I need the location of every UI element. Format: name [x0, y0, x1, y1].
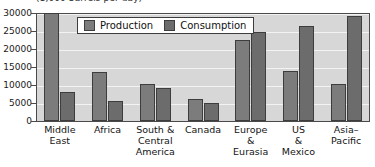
y-axis-tick-label: 30000: [0, 9, 32, 18]
y-axis-tick-label: 25000: [0, 27, 32, 36]
x-axis-category-label: Africa: [84, 124, 132, 135]
legend-label-consumption: Consumption: [180, 20, 246, 31]
x-axis-category-label: South & Central America: [131, 124, 179, 157]
bar-production: [331, 84, 346, 121]
bar-consumption: [204, 103, 219, 121]
bar-production: [283, 71, 298, 121]
bar-consumption: [156, 88, 171, 121]
chart-legend: Production Consumption: [77, 17, 254, 34]
legend-entry-consumption: Consumption: [164, 20, 246, 31]
y-axis-tick-label: 20000: [0, 45, 32, 54]
bar-consumption: [347, 16, 362, 121]
bar-production: [188, 99, 203, 121]
legend-swatch-production-icon: [84, 20, 95, 31]
legend-entry-production: Production: [84, 20, 153, 31]
x-axis-category-label: Europe & Eurasia: [227, 124, 275, 157]
x-axis-category-label: Canada: [179, 124, 227, 135]
legend-label-production: Production: [100, 20, 153, 31]
bar-production: [140, 84, 155, 121]
y-axis-tick-label: 0: [0, 117, 32, 126]
axis-units-caption: (1,000 barrels per day): [36, 0, 142, 3]
x-axis-labels: Middle EastAfricaSouth & Central America…: [36, 124, 370, 167]
bar-chart: (1,000 barrels per day) 3000025000200001…: [0, 0, 375, 167]
bar-production: [92, 72, 107, 121]
x-axis-category-label: US & Mexico: [275, 124, 323, 157]
y-axis-tick-mark: [31, 121, 36, 122]
bar-consumption: [60, 92, 75, 121]
bar-production: [44, 13, 59, 121]
x-axis-category-label: Middle East: [36, 124, 84, 146]
y-axis-tick-label: 5000: [0, 99, 32, 108]
y-axis-tick-label: 10000: [0, 81, 32, 90]
y-axis-tick-label: 15000: [0, 63, 32, 72]
bar-production: [235, 40, 250, 121]
bar-consumption: [108, 101, 123, 121]
x-axis-category-label: Asia– Pacific: [322, 124, 370, 146]
bar-consumption: [299, 26, 314, 121]
bar-consumption: [251, 32, 266, 121]
legend-swatch-consumption-icon: [164, 20, 175, 31]
